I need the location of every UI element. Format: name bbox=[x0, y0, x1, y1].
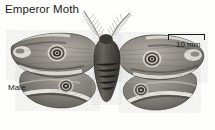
hindwing-left-eyespot bbox=[58, 79, 73, 93]
forewing-left-eyespot bbox=[48, 45, 67, 62]
scale-bar-rule bbox=[168, 34, 205, 35]
scale-bar-caption: 10 mm bbox=[176, 41, 200, 49]
scale-bar-tick-left bbox=[168, 34, 169, 40]
moth-figure: Emperor Moth Male 10 mm bbox=[0, 0, 215, 130]
sex-label: Male bbox=[8, 84, 25, 92]
emperor-moth-photograph bbox=[0, 0, 215, 130]
hindwing-right-eyespot bbox=[133, 83, 148, 97]
figure-title: Emperor Moth bbox=[5, 4, 79, 16]
forewing-right-eyespot bbox=[143, 51, 162, 68]
scale-bar-tick-right bbox=[204, 34, 205, 40]
